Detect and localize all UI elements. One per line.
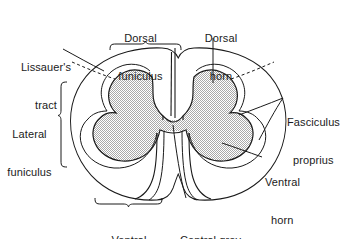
label-dorsal-horn-line1: Dorsal <box>189 32 253 45</box>
label-fasciculus-proprius-line1: Fasciculus <box>287 116 343 129</box>
spinal-cord-diagram: Dorsal funiculus Dorsal horn Lissauer's … <box>0 0 343 239</box>
label-lissauers-tract-line1: Lissauer's <box>8 61 84 74</box>
label-ventral-funiculus: Ventral funiculus <box>85 209 173 239</box>
label-lateral-funiculus: Lateral funiculus <box>2 103 57 203</box>
label-lateral-funiculus-line2: funiculus <box>2 166 57 179</box>
label-dorsal-funiculus-line1: Dorsal <box>92 32 189 45</box>
label-central-grey-commissure: Central grey commissure <box>180 209 290 239</box>
label-dorsal-funiculus: Dorsal funiculus <box>92 7 189 107</box>
label-lateral-funiculus-line1: Lateral <box>2 128 57 141</box>
label-central-grey-commissure-line1: Central grey <box>180 234 290 239</box>
label-dorsal-horn-line2: horn <box>189 70 253 83</box>
label-ventral-horn-line1: Ventral <box>265 176 325 189</box>
label-ventral-funiculus-line1: Ventral <box>85 234 173 239</box>
label-dorsal-horn: Dorsal horn <box>189 7 253 107</box>
label-dorsal-funiculus-line2: funiculus <box>92 70 189 83</box>
